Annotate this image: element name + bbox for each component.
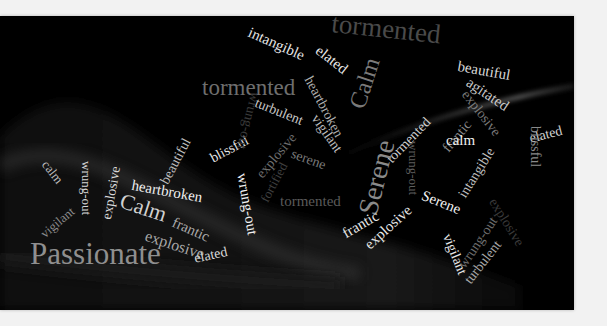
word: tormented [280,194,341,209]
word: wrung-out [407,141,420,195]
word: blissful [528,126,542,167]
word: calm [446,133,475,148]
word: Passionate [30,238,161,269]
word: wrung-out [80,161,93,215]
word-cloud-canvas: tormented intangible elated Calm beautif… [0,16,574,310]
